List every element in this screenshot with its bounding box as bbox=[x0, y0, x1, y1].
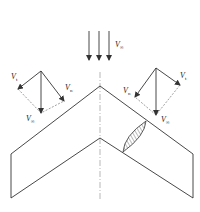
freestream-label: V∞ bbox=[115, 41, 123, 50]
right-vinf-label: V∞ bbox=[161, 116, 169, 125]
right-vt-label: Vt bbox=[180, 72, 186, 81]
right-velocity-triangle bbox=[135, 68, 180, 115]
left-velocity-triangle bbox=[18, 71, 64, 113]
diagram-svg bbox=[0, 0, 200, 212]
left-vn-label: Vn bbox=[65, 84, 72, 93]
right-vn-label: Vn bbox=[123, 87, 130, 96]
left-vinf-label: V∞ bbox=[26, 115, 34, 124]
freestream-arrows bbox=[89, 31, 109, 60]
airfoil-section bbox=[123, 121, 146, 152]
swept-wing-diagram: V∞ Vt Vn V∞ Vt Vn V∞ bbox=[0, 0, 200, 212]
left-vt-label: Vt bbox=[11, 73, 17, 82]
